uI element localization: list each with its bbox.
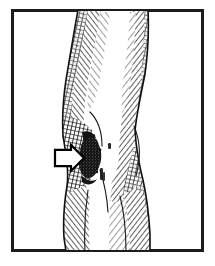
lesion-satellite-1 [99, 149, 102, 152]
leg-lesion-illustration [0, 0, 215, 266]
figure-container: Black and white cross-hatched ink drawin… [0, 0, 215, 266]
stipple-mark-1 [108, 143, 111, 149]
lesion-satellite-2 [96, 171, 98, 173]
calf-left-hatch [63, 191, 91, 251]
